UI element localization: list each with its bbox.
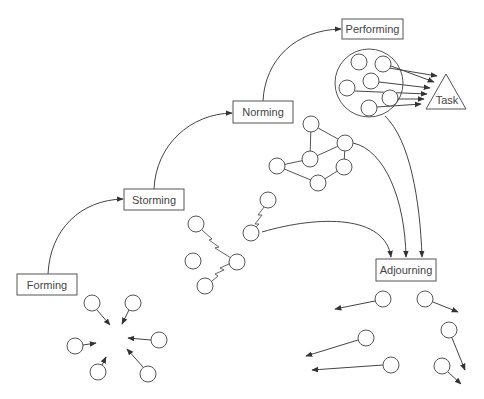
member-circle — [337, 135, 353, 151]
member-circle — [229, 254, 245, 270]
member-circle — [375, 56, 391, 72]
member-circle — [125, 295, 141, 311]
arrow-storming-to-adjourning — [262, 221, 391, 257]
member-circle — [140, 366, 156, 382]
stage-norming: Norming — [233, 101, 293, 123]
member-circle — [383, 357, 399, 373]
group-development-diagram: Forming Storming Norming Performing Adjo… — [0, 0, 484, 399]
stage-progression-arrows — [48, 29, 341, 274]
member-circle — [375, 291, 391, 307]
arrow-norming-to-adjourning — [353, 143, 406, 257]
member-circle — [417, 291, 433, 307]
stage-storming: Storming — [124, 189, 184, 210]
stage-adjourning: Adjourning — [376, 259, 436, 281]
arrow-performing-to-adjourning — [385, 116, 422, 257]
task-label: Task — [436, 94, 459, 106]
member-circle — [361, 100, 377, 116]
stage-forming: Forming — [17, 274, 77, 295]
member-circle — [303, 116, 319, 132]
member-circle — [269, 158, 285, 174]
arrow-norming-to-performing — [263, 29, 341, 101]
member-circle — [336, 159, 352, 175]
adjourning-group — [306, 291, 465, 384]
member-circle — [310, 175, 326, 191]
member-circle — [441, 322, 457, 338]
stage-label-forming: Forming — [27, 279, 67, 291]
stage-label-performing: Performing — [346, 23, 400, 35]
member-circle — [185, 253, 201, 269]
member-circle — [363, 73, 379, 89]
norming-group — [269, 116, 353, 191]
member-circle — [434, 358, 450, 374]
member-circle — [382, 90, 398, 106]
conflict-bolt-icon — [212, 263, 231, 281]
member-circle — [67, 338, 83, 354]
arrow-forming-to-storming — [48, 199, 123, 274]
stage-performing: Performing — [342, 19, 403, 39]
member-circle — [90, 364, 106, 380]
member-circle — [351, 54, 367, 70]
storming-group — [185, 192, 276, 294]
member-circle — [358, 330, 374, 346]
member-circle — [151, 332, 167, 348]
member-circle — [84, 295, 100, 311]
conflict-bolt-icon — [202, 230, 231, 258]
member-circle — [197, 278, 213, 294]
stage-label-norming: Norming — [242, 106, 284, 118]
member-circle — [188, 216, 204, 232]
member-circle — [339, 80, 355, 96]
member-circle — [260, 192, 276, 208]
forming-group — [67, 295, 167, 382]
performing-group: Task — [335, 49, 466, 117]
arrow-storming-to-norming — [154, 113, 232, 189]
stage-label-storming: Storming — [132, 194, 176, 206]
member-circle — [302, 151, 318, 167]
member-circle — [243, 225, 259, 241]
stage-label-adjourning: Adjourning — [380, 264, 433, 276]
